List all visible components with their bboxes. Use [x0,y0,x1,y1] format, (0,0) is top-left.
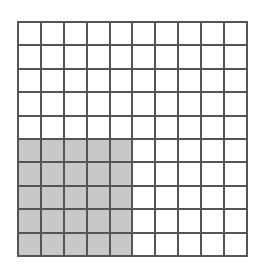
grid-cell [179,210,202,233]
grid-cell [202,163,225,186]
grid-cell [179,46,202,69]
shaded-cell [111,163,134,186]
grid-cell [202,140,225,163]
grid-cell [179,23,202,46]
grid-cell [202,117,225,140]
shaded-cell [65,163,88,186]
grid-cell [19,46,42,69]
grid-cell [156,93,179,116]
grid-cell [156,70,179,93]
shaded-cell [88,140,111,163]
grid-cell [65,93,88,116]
grid-cell [133,23,156,46]
shaded-cell [19,163,42,186]
grid-cell [111,117,134,140]
grid-cell [202,187,225,210]
grid-cell [156,23,179,46]
grid-cell [202,210,225,233]
grid-cell [225,210,248,233]
shaded-cell [111,140,134,163]
grid-cell [133,117,156,140]
grid-cell [133,234,156,257]
grid-cell [133,163,156,186]
shaded-cell [19,234,42,257]
shaded-cell [42,187,65,210]
grid-cell [111,70,134,93]
grid-cell [225,163,248,186]
shaded-cell [19,210,42,233]
grid-cell [19,70,42,93]
grid-cell [42,93,65,116]
grid-cell [225,46,248,69]
shaded-cell [65,140,88,163]
grid-cell [19,117,42,140]
grid-cell [65,46,88,69]
grid-cell [133,70,156,93]
shaded-cell [65,210,88,233]
shaded-cell [111,234,134,257]
grid-cell [19,23,42,46]
grid-cell [156,210,179,233]
shaded-cell [42,163,65,186]
shaded-cell [19,140,42,163]
grid-cell [133,210,156,233]
grid-cell [111,93,134,116]
grid-cell [225,23,248,46]
grid-cell [42,117,65,140]
grid-cell [202,234,225,257]
shaded-cell [88,187,111,210]
grid-cell [133,46,156,69]
grid-cell [156,46,179,69]
grid-cell [88,23,111,46]
grid-cell [179,163,202,186]
shaded-cell [65,234,88,257]
shaded-cell [111,187,134,210]
grid-cell [88,117,111,140]
grid-cell [225,70,248,93]
grid-cell [65,70,88,93]
grid-cell [156,163,179,186]
grid-cell [156,117,179,140]
shaded-cell [88,210,111,233]
grid-cell [65,23,88,46]
shaded-cell [42,234,65,257]
grid-cell [202,46,225,69]
grid-cell [156,187,179,210]
shaded-cell [19,187,42,210]
shaded-cell [65,187,88,210]
grid-cell [179,140,202,163]
grid-cell [88,46,111,69]
shaded-cell [88,163,111,186]
grid-cell [19,93,42,116]
grid-cell [225,117,248,140]
grid-cell [88,70,111,93]
grid-cell [42,70,65,93]
grid-cell [179,70,202,93]
grid-cell [179,117,202,140]
grid-cell [225,93,248,116]
grid-cell [42,23,65,46]
grid-cell [133,187,156,210]
grid-cell [42,46,65,69]
grid-cell [202,93,225,116]
shaded-cell [42,210,65,233]
grid-cell [179,187,202,210]
grid-cell [225,234,248,257]
grid-cell [88,93,111,116]
grid-cell [179,93,202,116]
shaded-cell [88,234,111,257]
grid-cell [225,140,248,163]
grid-cell [225,187,248,210]
grid-cell [65,117,88,140]
shaded-cell [111,210,134,233]
grid-cell [202,23,225,46]
grid-cell [133,140,156,163]
grid-cell [111,23,134,46]
hundred-grid [17,21,248,257]
grid-cell [156,140,179,163]
grid-cell [133,93,156,116]
shaded-cell [42,140,65,163]
grid-cell [111,46,134,69]
grid-cell [202,70,225,93]
grid-cell [156,234,179,257]
